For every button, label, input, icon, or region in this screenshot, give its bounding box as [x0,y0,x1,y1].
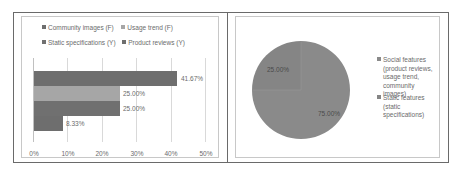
panel-divider [227,12,228,163]
x-tick-label: 0% [29,150,38,157]
legend-label: specifications) [377,111,425,120]
legend-swatch-static-specifications [42,40,46,44]
x-tick-label: 20% [95,150,108,157]
x-tick-label: 30% [130,150,143,157]
bar-community-images [34,71,177,86]
pie-legend-social: Social features (product reviews, usage … [377,56,439,99]
bar-static-specifications [34,101,120,116]
bar-value-label: 41.67% [181,75,203,82]
legend-label: usage trend, [377,73,439,82]
x-tick-label: 40% [164,150,177,157]
legend-label-community-images: Community images (F) [48,24,114,31]
bar-value-label: 25.00% [123,105,145,112]
bar-value-label: 8.33% [66,120,84,127]
legend-swatch-social [377,57,381,61]
legend-label-usage-trend: Usage trend (F) [127,24,173,31]
bar-chart-panel: Community images (F) Usage trend (F) Sta… [21,16,219,158]
legend-swatch-static [377,95,381,99]
pie-legend-static: Static features (static specifications) [377,94,425,120]
legend-label: Social features [383,56,426,63]
bar-legend-row-1: Community images (F) Usage trend (F) [42,24,173,31]
legend-label-product-reviews: Product reviews (Y) [128,39,185,46]
legend-label: (static [377,103,425,112]
x-tick-label: 10% [61,150,74,157]
legend-label: (product reviews, [377,65,439,74]
legend-label: Static features [383,94,425,101]
legend-swatch-product-reviews [122,40,126,44]
pie-label-small: 25.00% [267,66,289,73]
bar-usage-trend [34,86,120,101]
pie-chart [251,31,371,151]
gridline-50 [205,58,206,142]
bar-product-reviews [34,116,63,131]
legend-swatch-community-images [42,25,46,29]
legend-swatch-usage-trend [121,25,125,29]
legend-label-static-specifications: Static specifications (Y) [48,39,116,46]
pie-label-large: 75.00% [318,110,340,117]
pie-chart-panel: 25.00% 75.00% Social features (product r… [235,16,440,158]
x-tick-label: 50% [199,150,212,157]
bar-legend-row-2: Static specifications (Y) Product review… [42,39,185,46]
bar-value-label: 25.00% [123,90,145,97]
